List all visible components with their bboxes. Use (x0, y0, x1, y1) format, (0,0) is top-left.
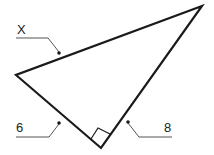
label-hypotenuse: X (17, 23, 26, 36)
leader-dot-x (57, 51, 61, 55)
leader-line-x (16, 38, 59, 52)
label-leg-left: 6 (16, 121, 23, 134)
triangle-diagram (0, 0, 214, 155)
leader-dot-6 (57, 121, 61, 125)
right-angle-marker (91, 128, 110, 139)
triangle (16, 6, 202, 148)
label-leg-right: 8 (164, 121, 171, 134)
leader-dot-8 (126, 120, 130, 124)
